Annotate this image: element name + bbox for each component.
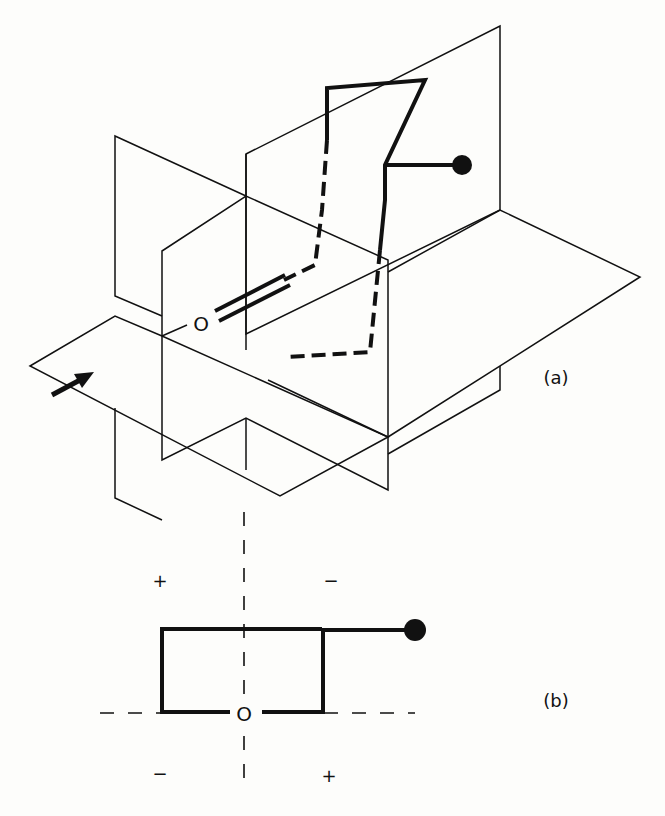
panel-a: O (a)	[30, 26, 640, 520]
substituent-atom-b	[404, 619, 426, 641]
horizontal-plane-right	[388, 210, 640, 437]
dashed-bond-left	[284, 140, 327, 280]
horizontal-plane-edge	[268, 380, 388, 437]
oxygen-label-b: O	[236, 702, 252, 726]
panel-b: O + − − + (b)	[100, 512, 569, 790]
panel-b-label: (b)	[543, 690, 568, 711]
oxygen-label-a: O	[193, 312, 209, 336]
sign-bottom-right: +	[321, 765, 336, 786]
lower-right-plane	[388, 366, 500, 454]
ring-bonds-right	[262, 631, 323, 712]
substituent-atom	[452, 155, 472, 175]
front-vertical-plane	[162, 196, 388, 490]
octant-rule-diagram: O (a) O + − − + (b)	[0, 0, 665, 816]
sign-bottom-left: −	[152, 763, 167, 784]
plane-to-oxygen	[162, 325, 187, 336]
viewing-direction-arrow-icon	[52, 372, 94, 395]
ring-bonds-left	[162, 629, 322, 712]
dashed-bond-right	[288, 250, 380, 357]
sign-top-right: −	[323, 570, 338, 591]
left-back-plane	[115, 136, 246, 316]
panel-a-label: (a)	[543, 367, 568, 388]
sign-top-left: +	[152, 570, 167, 591]
horizontal-plane	[30, 316, 388, 496]
lower-left-plane	[115, 408, 162, 520]
